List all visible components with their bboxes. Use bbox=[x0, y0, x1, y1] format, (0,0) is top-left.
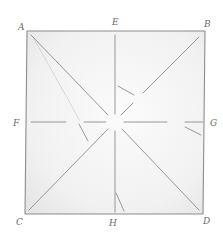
label-b: B bbox=[203, 19, 211, 29]
label-f: F bbox=[12, 118, 20, 128]
label-a: A bbox=[17, 22, 25, 32]
geometry-diagram: AEBFGCHD bbox=[0, 0, 223, 234]
label-g: G bbox=[210, 118, 217, 128]
label-e: E bbox=[111, 17, 119, 27]
label-d: D bbox=[202, 216, 210, 226]
label-h: H bbox=[108, 218, 117, 228]
label-c: C bbox=[16, 217, 23, 227]
